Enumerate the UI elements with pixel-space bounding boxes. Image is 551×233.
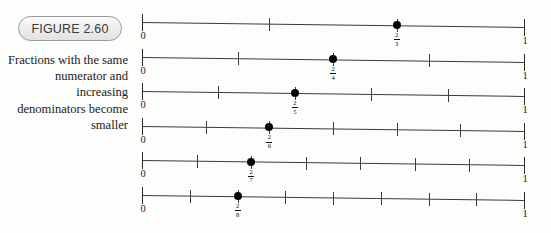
axis-tick-one <box>524 19 525 36</box>
axis-tick <box>238 52 239 65</box>
number-line-7ths: 0127 <box>136 148 551 182</box>
figure-left-column: FIGURE 2.60 Fractions with the same nume… <box>0 0 136 233</box>
axis-label-zero: 0 <box>140 134 145 145</box>
axis-tick-one <box>524 123 525 140</box>
axis-tick <box>360 157 361 170</box>
marked-point-dot <box>291 89 299 97</box>
axis-tick-zero <box>142 118 143 135</box>
axis-line <box>142 91 524 97</box>
axis-tick <box>415 158 416 171</box>
axis-tick <box>371 88 372 101</box>
axis-tick <box>333 192 334 205</box>
axis-tick <box>469 159 470 172</box>
fraction-label: 28 <box>231 203 245 218</box>
axis-line <box>142 160 524 166</box>
axis-tick <box>397 123 398 136</box>
axis-label-zero: 0 <box>140 30 145 41</box>
axis-tick <box>429 54 430 67</box>
fraction-label: 27 <box>244 169 258 184</box>
axis-tick-zero <box>142 83 143 100</box>
axis-tick <box>429 193 430 206</box>
marked-point-dot <box>329 55 337 63</box>
fraction-numerator: 2 <box>244 169 258 176</box>
axis-tick <box>190 190 191 203</box>
axis-tick-zero <box>142 187 143 204</box>
axis-tick-one <box>524 192 525 209</box>
fraction-label: 26 <box>262 134 276 149</box>
number-line-4ths: 0124 <box>136 45 551 79</box>
fraction-numerator: 2 <box>288 100 302 107</box>
axis-tick <box>197 155 198 168</box>
fraction-numerator: 2 <box>326 66 340 73</box>
axis-tick-zero <box>142 152 143 169</box>
number-line-8ths: 0128 <box>136 183 551 217</box>
number-line-5ths: 0125 <box>136 79 551 113</box>
marked-point-dot <box>234 192 242 200</box>
axis-tick <box>269 18 270 31</box>
figure-caption: Fractions with the same numerator and in… <box>6 52 128 133</box>
axis-tick <box>306 157 307 170</box>
axis-tick <box>285 191 286 204</box>
fraction-denominator: 8 <box>231 212 245 219</box>
axis-label-zero: 0 <box>140 168 145 179</box>
number-line-6ths: 0126 <box>136 114 551 148</box>
axis-tick <box>218 86 219 99</box>
axis-tick-one <box>524 157 525 174</box>
axis-tick <box>460 124 461 137</box>
axis-tick <box>476 193 477 206</box>
axis-tick <box>448 89 449 102</box>
fraction-numerator: 2 <box>262 134 276 141</box>
axis-tick <box>206 121 207 134</box>
axis-label-zero: 0 <box>140 65 145 76</box>
marked-point-dot <box>265 123 273 131</box>
marked-point-dot <box>393 21 401 29</box>
figure-number-badge: FIGURE 2.60 <box>18 16 122 41</box>
axis-tick <box>381 192 382 205</box>
axis-label-zero: 0 <box>140 203 145 214</box>
figure-container: FIGURE 2.60 Fractions with the same nume… <box>0 0 551 233</box>
axis-label-zero: 0 <box>140 99 145 110</box>
axis-line <box>142 22 524 28</box>
fraction-numerator: 2 <box>390 32 404 39</box>
marked-point-dot <box>247 158 255 166</box>
fraction-numerator: 2 <box>231 203 245 210</box>
number-line-3ths: 0123 <box>136 10 551 44</box>
axis-tick-one <box>524 54 525 71</box>
axis-tick-one <box>524 88 525 105</box>
axis-label-one: 1 <box>522 208 527 219</box>
axis-tick-zero <box>142 49 143 66</box>
number-line-group: 012301240125012601270128 <box>136 0 551 233</box>
axis-tick <box>333 122 334 135</box>
axis-tick-zero <box>142 14 143 31</box>
